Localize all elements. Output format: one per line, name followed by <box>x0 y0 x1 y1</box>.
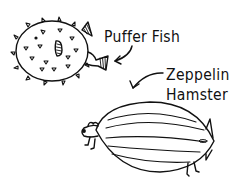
zeppelin-hamster-label: Zeppelin Hamster <box>166 64 230 104</box>
zeppelin-hamster-label-line1: Zeppelin <box>166 64 230 84</box>
zeppelin-hamster-drawing <box>82 102 214 176</box>
illustration-canvas: Puffer Fish Zeppelin Hamster <box>0 0 233 196</box>
puffer-fish-drawing <box>11 17 108 85</box>
zeppelin-hamster-label-line2: Hamster <box>166 84 230 104</box>
puffer-fish-label: Puffer Fish <box>104 27 180 45</box>
